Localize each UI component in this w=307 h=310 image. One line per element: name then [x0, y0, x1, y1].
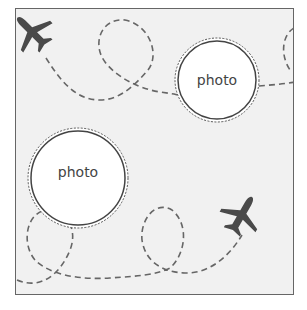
airplane-icon-top-left: [3, 3, 61, 61]
flight-path-top: [46, 20, 178, 100]
photo-placeholder-label: photo: [58, 164, 98, 180]
photo-placeholder-label: photo: [197, 72, 237, 88]
travel-artwork: [0, 0, 307, 310]
airplane-icon-bottom-right: [214, 187, 270, 243]
